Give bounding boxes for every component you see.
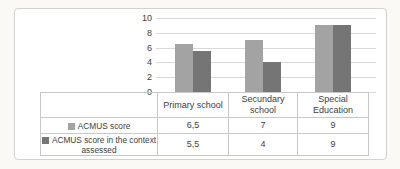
y-axis-label-10: 10 <box>128 12 152 24</box>
legend-label-series2-line1: ACMUS score in the context <box>52 135 156 145</box>
legend-label-series1: ACMUS score <box>78 121 131 131</box>
bar-series2-primary-school <box>193 51 211 92</box>
gridline-10 <box>156 18 376 19</box>
y-axis-label-8: 8 <box>128 27 152 39</box>
data-table: Primary school Secundary school Special … <box>40 92 369 156</box>
chart-screenshot: 0246810 Primary school Secundary school … <box>0 0 400 169</box>
y-axis-label-6: 6 <box>128 42 152 54</box>
legend-entry-series1: ACMUS score <box>68 121 131 131</box>
value-cell-s2-primary: 5,5 <box>158 134 229 156</box>
bar-series2-special-education <box>333 25 351 92</box>
category-cell-secundary-school: Secundary school <box>229 93 298 118</box>
bar-series1-secundary-school <box>245 40 263 92</box>
value-cell-s1-primary: 6,5 <box>158 118 229 134</box>
table-corner-cell <box>41 93 158 118</box>
value-cell-s1-secundary: 7 <box>229 118 298 134</box>
bar-series1-special-education <box>315 25 333 92</box>
y-axis-label-2: 2 <box>128 71 152 83</box>
y-axis-label-4: 4 <box>128 56 152 68</box>
legend-entry-series2: ACMUS score in the context <box>42 135 156 145</box>
legend-cell-acmus-score-context: ACMUS score in the context assessed <box>41 134 158 156</box>
category-cell-special-education: Special Education <box>298 93 369 118</box>
legend-label-series2-line2: assessed <box>41 145 157 155</box>
legend-cell-acmus-score: ACMUS score <box>41 118 158 134</box>
category-cell-primary-school: Primary school <box>158 93 229 118</box>
bar-series2-secundary-school <box>263 62 281 92</box>
series2-key-icon <box>42 137 49 144</box>
series1-key-icon <box>68 123 75 130</box>
value-cell-s2-secundary: 4 <box>229 134 298 156</box>
value-cell-s1-special: 9 <box>298 118 369 134</box>
bar-series1-primary-school <box>175 44 193 92</box>
value-cell-s2-special: 9 <box>298 134 369 156</box>
